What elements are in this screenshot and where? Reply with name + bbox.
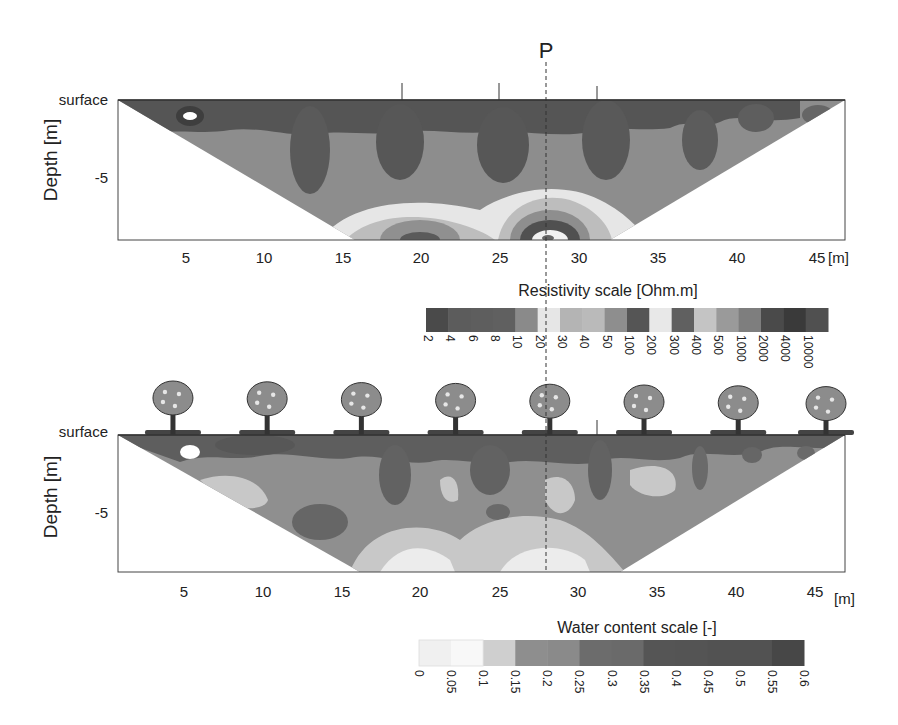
x-tick: 10: [255, 583, 272, 600]
scale-tick: 0.1: [476, 670, 490, 687]
scale-tick: 0.55: [765, 670, 779, 694]
x-tick: 35: [650, 249, 667, 266]
x-tick: 30: [571, 249, 588, 266]
x-tick: 25: [492, 583, 509, 600]
scale-swatch: [627, 308, 650, 332]
x-tick: 40: [729, 249, 746, 266]
scale-tick: 0.15: [508, 670, 522, 694]
scale-swatch: [579, 640, 612, 666]
scale-tick: 0.5: [733, 670, 747, 687]
scale-swatch: [483, 640, 516, 666]
scale-swatch: [649, 308, 672, 332]
x-axis-unit: [m]: [834, 590, 855, 607]
scale-tick: 0.25: [572, 670, 586, 694]
scale-swatch: [515, 640, 548, 666]
scale-tick: 1000: [734, 335, 748, 362]
scale-swatch: [783, 308, 806, 332]
scale-swatch: [451, 640, 484, 666]
scale-swatch: [761, 308, 784, 332]
y-axis-label: Depth [m]: [40, 456, 61, 538]
x-axis-ticks: 5 10 15 20 25 30 35 40 45: [182, 249, 826, 266]
scale-tick: 40: [577, 335, 591, 349]
water-content-section: [118, 435, 845, 572]
scale-tick: 0.05: [444, 670, 458, 694]
scale-swatch: [560, 308, 583, 332]
scale-tick: 2: [421, 335, 435, 342]
resistivity-scale-title: Resistivity scale [Ohm.m]: [518, 282, 698, 299]
y-tick-label: -5: [95, 169, 108, 186]
surface-label: surface: [59, 91, 108, 108]
x-tick: 15: [334, 583, 351, 600]
scale-tick: 300: [667, 335, 681, 355]
scale-swatch: [716, 308, 739, 332]
scale-tick: 200: [644, 335, 658, 355]
resistivity-panel: P: [40, 38, 849, 369]
scale-tick: 400: [689, 335, 703, 355]
scale-tick: 0: [412, 670, 426, 677]
scale-swatch: [582, 308, 605, 332]
scale-tick: 0.2: [540, 670, 554, 687]
scale-tick: 2000: [756, 335, 770, 362]
scale-tick: 50: [600, 335, 614, 349]
y-axis-label: Depth [m]: [40, 119, 61, 201]
scale-tick: 4000: [778, 335, 792, 362]
x-tick: 20: [412, 583, 429, 600]
scale-swatch: [772, 640, 805, 666]
scale-tick: 10: [510, 335, 524, 349]
figure: P: [0, 0, 898, 725]
scale-tick: 8: [488, 335, 502, 342]
marker-label: P: [539, 38, 554, 63]
x-tick: 25: [492, 249, 509, 266]
scale-tick: 0.3: [605, 670, 619, 687]
scale-tick: 100: [622, 335, 636, 355]
scale-tick: 500: [711, 335, 725, 355]
resistivity-color-scale: 2468102030405010020030040050010002000400…: [421, 308, 829, 369]
surface-label: surface: [59, 423, 108, 440]
scale-tick: 4: [443, 335, 457, 342]
scale-swatch: [493, 308, 516, 332]
water-content-color-scale: 00.050.10.150.20.250.30.350.40.450.50.55…: [412, 640, 811, 694]
scale-tick: 6: [466, 335, 480, 342]
scale-swatch: [538, 308, 561, 332]
scale-tick: 10000: [801, 335, 815, 369]
x-tick: 15: [335, 249, 352, 266]
scale-swatch: [426, 308, 449, 332]
x-tick: 35: [649, 583, 666, 600]
scale-swatch: [471, 308, 494, 332]
x-tick: 45: [809, 249, 826, 266]
scale-swatch: [612, 640, 645, 666]
x-tick: 5: [182, 249, 190, 266]
scale-tick: 0.45: [701, 670, 715, 694]
scale-tick: 0.35: [637, 670, 651, 694]
x-tick: 10: [256, 249, 273, 266]
scale-swatch: [806, 308, 829, 332]
scale-swatch: [644, 640, 677, 666]
x-tick: 40: [728, 583, 745, 600]
x-axis-unit: [m]: [828, 249, 849, 266]
scale-swatch: [694, 308, 717, 332]
scale-swatch: [672, 308, 695, 332]
x-tick: 45: [807, 583, 824, 600]
scale-swatch: [605, 308, 628, 332]
water-scale-title: Water content scale [-]: [557, 619, 716, 636]
water-content-panel: surface Depth [m] -5 5 10 15 20 25 30 35…: [40, 381, 855, 694]
scale-swatch: [740, 640, 773, 666]
y-tick-label: -5: [95, 504, 108, 521]
x-tick: 5: [180, 583, 188, 600]
x-axis-ticks: 5 10 15 20 25 30 35 40 45: [180, 583, 824, 600]
scale-tick: 0.6: [797, 670, 811, 687]
scale-swatch: [419, 640, 452, 666]
scale-tick: 30: [555, 335, 569, 349]
scale-tick: 0.4: [669, 670, 683, 687]
scale-swatch: [547, 640, 580, 666]
x-tick: 30: [570, 583, 587, 600]
scale-swatch: [515, 308, 538, 332]
scale-swatch: [676, 640, 709, 666]
scale-swatch: [448, 308, 471, 332]
scale-swatch: [739, 308, 762, 332]
scale-swatch: [708, 640, 741, 666]
x-tick: 20: [413, 249, 430, 266]
scale-tick: 20: [533, 335, 547, 349]
electrode-marks: [402, 83, 597, 100]
resistivity-section: [118, 100, 845, 270]
